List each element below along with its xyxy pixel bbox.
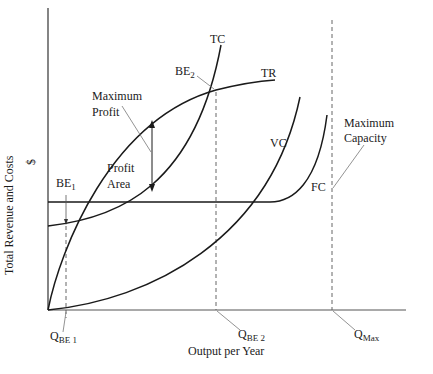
tr-curve — [48, 80, 275, 310]
vc-label: VC — [270, 136, 287, 150]
x-axis-label: Output per Year — [188, 344, 264, 358]
profit-area-label: Profit Area — [107, 160, 134, 192]
be1-label: BE1 — [56, 176, 76, 191]
y-axis-unit: $ — [24, 159, 38, 165]
arrow-head-up-icon — [149, 120, 155, 128]
qmax-label: QMax — [354, 327, 379, 342]
max-profit-label: Maximum Profit — [92, 88, 142, 120]
y-axis-label: Total Revenue and Costs — [2, 156, 17, 275]
qbe1-label: QBE 1 — [50, 329, 77, 344]
arrow-head-down-icon — [149, 184, 155, 192]
qbe2-leader — [217, 311, 240, 330]
vc-curve — [48, 97, 300, 310]
fc-label: FC — [311, 180, 326, 194]
tr-label: TR — [261, 66, 276, 80]
qmax-leader — [333, 311, 355, 330]
qbe2-label: QBE 2 — [238, 327, 265, 342]
be2-label: BE2 — [175, 64, 195, 79]
max-capacity-label: Maximum Capacity — [344, 116, 394, 146]
max-capacity-leader — [333, 145, 364, 188]
tc-label: TC — [210, 32, 225, 46]
fc-curve — [48, 115, 327, 202]
tc-curve — [48, 45, 221, 226]
